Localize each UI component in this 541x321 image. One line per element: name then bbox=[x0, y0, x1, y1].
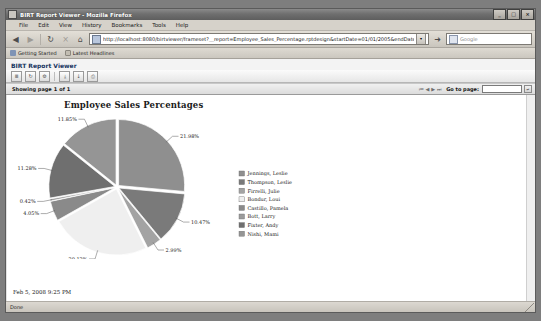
menu-file[interactable]: File bbox=[14, 22, 33, 28]
window-title-bar: BIRT Report Viewer - Mozilla Firefox _ □… bbox=[6, 9, 535, 20]
stop-icon[interactable]: × bbox=[59, 33, 72, 46]
menu-view[interactable]: View bbox=[54, 22, 77, 28]
menu-bookmarks[interactable]: Bookmarks bbox=[107, 22, 148, 28]
window-controls: _ □ × bbox=[493, 9, 534, 20]
legend-label: Bott, Larry bbox=[248, 213, 276, 220]
url-text: http://localhost:8080/birtviewer/framese… bbox=[103, 36, 414, 42]
showing-page-label: Showing page bbox=[12, 86, 52, 92]
pie-slice-label: 11.28% bbox=[18, 165, 37, 171]
legend-swatch bbox=[239, 214, 245, 219]
pie-slice-label: 21.98% bbox=[180, 133, 199, 139]
search-bar[interactable]: Google bbox=[446, 33, 532, 45]
bookmark-latest-headlines[interactable]: Latest Headlines bbox=[65, 50, 115, 56]
export-report-icon[interactable]: ⤓ bbox=[59, 71, 70, 82]
legend-swatch bbox=[239, 197, 245, 202]
google-icon bbox=[449, 35, 458, 44]
navigation-toolbar: ◀ ▶ ↻ × ⌂ http://localhost:8080/birtview… bbox=[6, 31, 535, 48]
close-button[interactable]: × bbox=[521, 9, 534, 20]
page-content: BIRT Report Viewer ≣ ↻ ⚙ ⤓ ↓ ⎙ Showing p… bbox=[6, 59, 535, 301]
legend-label: Fixter, Andy bbox=[248, 222, 279, 229]
pie-slice bbox=[119, 120, 185, 192]
page-nav-arrows: ⏮ ◀ ▶ ⏭ bbox=[419, 86, 443, 93]
status-text: Done bbox=[10, 304, 23, 310]
page-status: Showing page 1 of 1 bbox=[12, 86, 70, 92]
menu-help[interactable]: Help bbox=[171, 22, 194, 28]
print-icon[interactable]: ⎙ bbox=[87, 71, 98, 82]
legend-swatch bbox=[239, 180, 245, 185]
page-favicon-icon bbox=[92, 35, 101, 44]
of-label: of bbox=[59, 86, 65, 92]
current-page-number: 1 bbox=[54, 86, 57, 92]
status-bar: Done bbox=[6, 301, 535, 312]
home-icon[interactable]: ⌂ bbox=[74, 33, 87, 46]
pie-slice-label: 20.12% bbox=[68, 256, 87, 259]
page-navigation-bar: Showing page 1 of 1 ⏮ ◀ ▶ ⏭ Go to page: … bbox=[6, 83, 535, 95]
refresh-icon[interactable]: ↻ bbox=[25, 71, 36, 82]
pie-chart: 21.98%10.47%2.99%20.12%4.05%0.42%11.28%1… bbox=[13, 109, 323, 259]
bookmark-getting-started[interactable]: Getting Started bbox=[10, 50, 57, 56]
report-scrollbar[interactable] bbox=[526, 95, 535, 301]
resize-grip-icon[interactable] bbox=[525, 303, 534, 312]
url-dropdown-icon[interactable]: ▾ bbox=[416, 33, 426, 45]
viewer-toolbar: ≣ ↻ ⚙ ⤓ ↓ ⎙ bbox=[6, 70, 535, 83]
pie-slice-label: 2.99% bbox=[166, 247, 182, 253]
toc-icon[interactable]: ≣ bbox=[11, 71, 22, 82]
bookmark-icon bbox=[10, 50, 16, 56]
pie-slice-label: 4.05% bbox=[23, 210, 39, 216]
total-pages-number: 1 bbox=[67, 86, 70, 92]
legend-label: Jennings, Leslie bbox=[247, 170, 288, 177]
pie-slice-label: 11.85% bbox=[58, 116, 77, 122]
legend-label: Thompson, Leslie bbox=[248, 179, 293, 186]
url-bar[interactable]: http://localhost:8080/birtviewer/framese… bbox=[89, 33, 429, 45]
go-icon[interactable]: ➜ bbox=[431, 33, 444, 46]
prev-page-icon[interactable]: ◀ bbox=[426, 86, 430, 93]
back-icon[interactable]: ◀ bbox=[9, 33, 22, 46]
legend-label: Nishi, Mami bbox=[248, 231, 279, 237]
legend-swatch bbox=[239, 205, 245, 210]
goto-page-label: Go to page: bbox=[446, 86, 479, 92]
feed-icon bbox=[65, 50, 71, 56]
goto-page-button[interactable]: ↵ bbox=[524, 85, 532, 93]
reload-icon[interactable]: ↻ bbox=[44, 33, 57, 46]
report-timestamp: Feb 5, 2008 9:25 PM bbox=[13, 289, 71, 295]
legend-label: Bondur, Loui bbox=[248, 196, 281, 202]
last-page-icon[interactable]: ⏭ bbox=[437, 86, 442, 93]
menu-bar: File Edit View History Bookmarks Tools H… bbox=[6, 20, 535, 31]
viewer-header-title: BIRT Report Viewer bbox=[6, 59, 535, 70]
export-data-icon[interactable]: ↓ bbox=[73, 71, 84, 82]
pie-slice-label: 10.47% bbox=[191, 219, 210, 225]
next-page-icon[interactable]: ▶ bbox=[431, 86, 435, 93]
pie-label-leader bbox=[38, 168, 53, 170]
legend-swatch bbox=[239, 223, 245, 228]
toolbar-separator bbox=[40, 34, 41, 45]
bookmarks-toolbar: Getting Started Latest Headlines bbox=[6, 48, 535, 59]
menu-edit[interactable]: Edit bbox=[33, 22, 54, 28]
menu-history[interactable]: History bbox=[77, 22, 107, 28]
first-page-icon[interactable]: ⏮ bbox=[419, 86, 424, 93]
pie-label-leader bbox=[37, 200, 52, 202]
firefox-window: BIRT Report Viewer - Mozilla Firefox _ □… bbox=[5, 8, 536, 313]
viewer-toolbar-separator bbox=[54, 72, 55, 81]
report-canvas: Employee Sales Percentages 21.98%10.47%2… bbox=[6, 95, 535, 301]
search-input[interactable]: Google bbox=[460, 36, 478, 42]
maximize-button[interactable]: □ bbox=[507, 9, 520, 20]
legend-label: Firrelli, Julie bbox=[248, 188, 280, 195]
legend-swatch bbox=[239, 188, 245, 193]
parameters-icon[interactable]: ⚙ bbox=[39, 71, 50, 82]
pie-slice-label: 0.42% bbox=[20, 198, 36, 204]
pie-chart-svg: 21.98%10.47%2.99%20.12%4.05%0.42%11.28%1… bbox=[13, 109, 323, 259]
window-title: BIRT Report Viewer - Mozilla Firefox bbox=[20, 12, 132, 18]
legend-swatch bbox=[239, 231, 245, 236]
bookmark-label: Latest Headlines bbox=[73, 50, 115, 56]
forward-icon[interactable]: ▶ bbox=[24, 33, 37, 46]
minimize-button[interactable]: _ bbox=[493, 9, 506, 20]
legend-label: Castillo, Pamela bbox=[248, 205, 289, 211]
goto-page-input[interactable] bbox=[482, 85, 522, 93]
firefox-icon bbox=[8, 10, 17, 19]
bookmark-label: Getting Started bbox=[18, 50, 57, 56]
menu-tools[interactable]: Tools bbox=[147, 22, 171, 28]
legend-swatch bbox=[239, 171, 245, 176]
